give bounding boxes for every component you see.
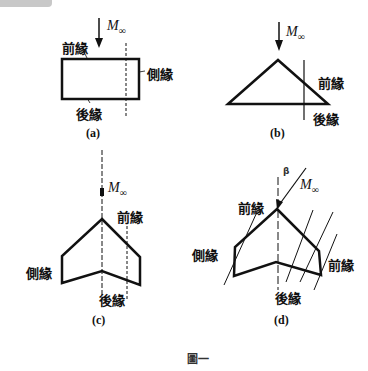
panel-d-leading-edge-2-label: 前緣: [328, 255, 354, 274]
panel-d-trailing-edge-label: 後緣: [275, 288, 301, 307]
panel-c-leading-edge-label: 前緣: [117, 207, 143, 226]
panel-b-mach-label: M∞: [286, 24, 305, 42]
panel-b-caption: (b): [270, 126, 285, 141]
panel-d-caption: (d): [274, 313, 289, 328]
panel-a-shapes: [62, 18, 145, 116]
panel-d-mach-label: M∞: [300, 177, 319, 195]
panel-c-mach-label: M∞: [108, 180, 127, 198]
panel-a-leading-edge-label: 前緣: [62, 38, 88, 57]
panel-d-beta-label: β: [283, 166, 289, 176]
panel-c-caption: (c): [92, 313, 105, 328]
panel-c-trailing-edge-label: 後緣: [99, 290, 125, 309]
figure-caption: 圖一: [187, 350, 209, 366]
panel-b-leading-edge-label: 前緣: [318, 73, 344, 92]
panel-a-mach-label: M∞: [107, 18, 126, 36]
panel-a-caption: (a): [86, 126, 100, 141]
panel-d-leading-edge-label: 前緣: [238, 198, 264, 217]
panel-d-shapes: [224, 168, 337, 290]
panel-a-side-edge-label: 側緣: [147, 64, 173, 83]
panel-b-shapes: [228, 22, 328, 120]
panel-c-side-edge-label: 側緣: [26, 263, 52, 282]
panel-b-trailing-edge-label: 後緣: [313, 109, 339, 128]
panel-a-trailing-edge-label: 後緣: [76, 104, 102, 123]
panel-d-side-edge-label: 側緣: [192, 245, 218, 264]
